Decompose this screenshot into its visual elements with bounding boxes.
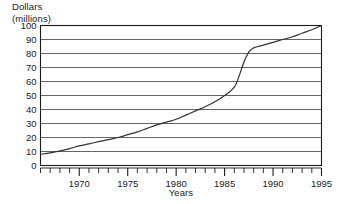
y-tick-label-80: 80 — [26, 48, 37, 59]
y-tick-label-60: 60 — [26, 76, 37, 87]
y-tick-label-70: 70 — [26, 62, 37, 73]
x-axis-ticks — [41, 168, 322, 176]
y-tick-label-0: 0 — [31, 160, 36, 171]
x-axis-title: Years — [0, 187, 346, 198]
y-tick-label-20: 20 — [26, 132, 37, 143]
y-tick-label-10: 10 — [26, 146, 37, 157]
chart-canvas: 0102030405060708090100 19701975198019851… — [0, 0, 346, 204]
data-series-line — [41, 26, 322, 155]
y-axis-tick-labels: 0102030405060708090100 — [21, 20, 37, 171]
y-tick-label-100: 100 — [21, 20, 37, 31]
y-tick-label-90: 90 — [26, 34, 37, 45]
series-path-dollars — [41, 26, 322, 155]
gridlines — [41, 40, 322, 152]
y-tick-label-40: 40 — [26, 104, 37, 115]
line-chart: Dollars (millions) 010203040506070809010… — [0, 0, 346, 204]
y-tick-label-30: 30 — [26, 118, 37, 129]
x-axis-title-label: Years — [169, 187, 193, 198]
y-tick-label-50: 50 — [26, 90, 37, 101]
